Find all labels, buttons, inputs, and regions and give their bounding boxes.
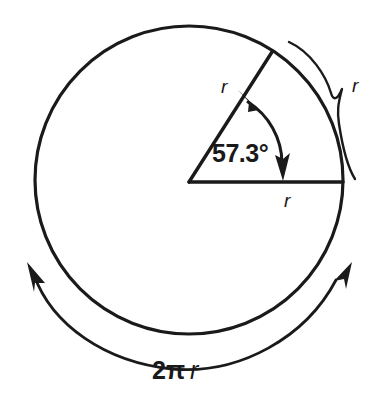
- angle-label: 57.3°: [212, 139, 268, 167]
- circumference-arrow-head-left: [27, 262, 45, 292]
- radius-label-upper: r: [221, 76, 228, 97]
- circumference-arrow-head-right: [334, 262, 352, 289]
- radius-label-lower: r: [284, 190, 291, 211]
- arc-brace: [289, 42, 355, 179]
- diagram-canvas: 57.3° r r r 2πr: [0, 0, 382, 399]
- arc-brace-label: r: [352, 75, 359, 96]
- pi-symbol: π: [166, 356, 185, 384]
- circumference-coefficient: 2: [152, 356, 166, 384]
- circle-radian-diagram: 57.3° r r r 2πr: [0, 0, 382, 399]
- circumference-label: 2πr: [152, 356, 200, 384]
